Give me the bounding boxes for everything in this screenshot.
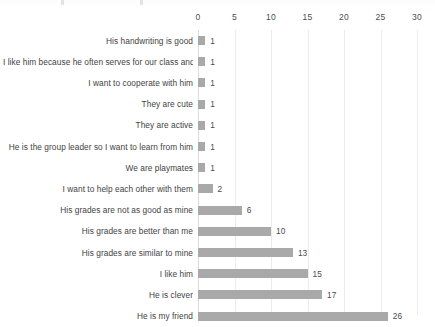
x-axis-tick-15: 15 bbox=[303, 12, 313, 22]
bar bbox=[198, 248, 293, 257]
category-label: They are active bbox=[3, 120, 193, 130]
bar-row: He is the group leader so I want to lear… bbox=[0, 136, 435, 157]
bar bbox=[198, 206, 242, 215]
bar-row: We are playmates1 bbox=[0, 157, 435, 178]
category-label: His grades are not as good as mine bbox=[3, 205, 193, 215]
scan-artifact-mark bbox=[140, 0, 143, 5]
bar bbox=[198, 269, 308, 278]
scan-artifact-mark bbox=[61, 0, 64, 5]
bar-value-label: 1 bbox=[210, 99, 215, 109]
bar bbox=[198, 163, 205, 172]
category-label: They are cute bbox=[3, 99, 193, 109]
bar bbox=[198, 121, 205, 130]
bar-value-label: 1 bbox=[210, 120, 215, 130]
category-label: I want to cooperate with him bbox=[3, 78, 193, 88]
bar-value-label: 13 bbox=[298, 248, 307, 258]
bar-row: His grades are similar to mine13 bbox=[0, 242, 435, 263]
category-label: I want to help each other with them bbox=[3, 184, 193, 194]
bar bbox=[198, 227, 271, 236]
bar bbox=[198, 184, 213, 193]
x-axis-tick-5: 5 bbox=[232, 12, 237, 22]
bar-row: His grades are better than me10 bbox=[0, 221, 435, 242]
bar bbox=[198, 142, 205, 151]
category-label: His grades are similar to mine bbox=[3, 248, 193, 258]
bar-value-label: 1 bbox=[210, 36, 215, 46]
bar-row: His grades are not as good as mine6 bbox=[0, 200, 435, 221]
bar bbox=[198, 100, 205, 109]
bar-value-label: 1 bbox=[210, 163, 215, 173]
bar-row: His handwriting is good1 bbox=[0, 30, 435, 51]
bar-value-label: 6 bbox=[247, 205, 252, 215]
category-label: I like him because he often serves for o… bbox=[3, 57, 193, 67]
scan-artifact bbox=[0, 0, 435, 7]
bar bbox=[198, 312, 388, 321]
x-axis-tick-20: 20 bbox=[339, 12, 349, 22]
bar bbox=[198, 290, 322, 299]
category-label: He is clever bbox=[3, 290, 193, 300]
x-axis-tick-30: 30 bbox=[412, 12, 422, 22]
bar-row: He is my friend26 bbox=[0, 306, 435, 327]
bar-row: I want to cooperate with him1 bbox=[0, 72, 435, 93]
bar bbox=[198, 78, 205, 87]
bar-value-label: 1 bbox=[210, 78, 215, 88]
bar-row: They are active1 bbox=[0, 115, 435, 136]
bar-row: I like him15 bbox=[0, 263, 435, 284]
bar-value-label: 26 bbox=[393, 311, 402, 321]
bar-value-label: 17 bbox=[327, 290, 336, 300]
bar bbox=[198, 36, 205, 45]
bar-value-label: 15 bbox=[313, 269, 322, 279]
bar-value-label: 10 bbox=[276, 226, 285, 236]
category-label: We are playmates bbox=[3, 163, 193, 173]
bar-row: He is clever17 bbox=[0, 284, 435, 305]
bar-row: I want to help each other with them2 bbox=[0, 178, 435, 199]
bar-value-label: 2 bbox=[218, 184, 223, 194]
category-label: He is the group leader so I want to lear… bbox=[3, 142, 193, 152]
bar-value-label: 1 bbox=[210, 57, 215, 67]
x-axis-tick-10: 10 bbox=[266, 12, 276, 22]
x-axis-tick-25: 25 bbox=[376, 12, 386, 22]
category-label: His grades are better than me bbox=[3, 226, 193, 236]
bar-row: I like him because he often serves for o… bbox=[0, 51, 435, 72]
horizontal-bar-chart: 051015202530 His handwriting is good1I l… bbox=[0, 0, 435, 327]
bar-row: They are cute1 bbox=[0, 94, 435, 115]
bar-value-label: 1 bbox=[210, 142, 215, 152]
x-axis-tick-0: 0 bbox=[196, 12, 201, 22]
category-label: I like him bbox=[3, 269, 193, 279]
category-label: He is my friend bbox=[3, 311, 193, 321]
category-label: His handwriting is good bbox=[3, 36, 193, 46]
bar bbox=[198, 57, 205, 66]
